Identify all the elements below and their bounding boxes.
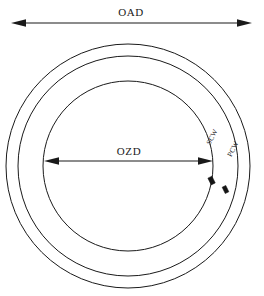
middle-circle	[18, 56, 238, 276]
oad-left-arrowhead	[11, 19, 26, 27]
ring-group	[6, 44, 250, 288]
ozd-right-arrowhead	[198, 157, 213, 165]
wall-label-group: SCW PCW	[205, 128, 241, 158]
inner-circle	[43, 81, 213, 251]
ring-dimension-diagram: OAD OZD SCW PCW	[0, 0, 264, 296]
pcw-label: PCW	[226, 140, 241, 158]
scw-label: SCW	[205, 128, 220, 146]
ozd-label: OZD	[117, 145, 141, 157]
oad-right-arrowhead	[237, 19, 252, 27]
thickness-marker-group	[208, 176, 229, 193]
diagram-canvas: OAD OZD SCW PCW	[0, 0, 264, 296]
oad-label: OAD	[118, 6, 144, 18]
ozd-left-arrowhead	[44, 157, 59, 165]
scw-thickness-marker	[208, 176, 215, 185]
ozd-dimension: OZD	[44, 145, 213, 165]
pcw-thickness-marker	[222, 185, 229, 193]
oad-dimension: OAD	[11, 6, 252, 27]
